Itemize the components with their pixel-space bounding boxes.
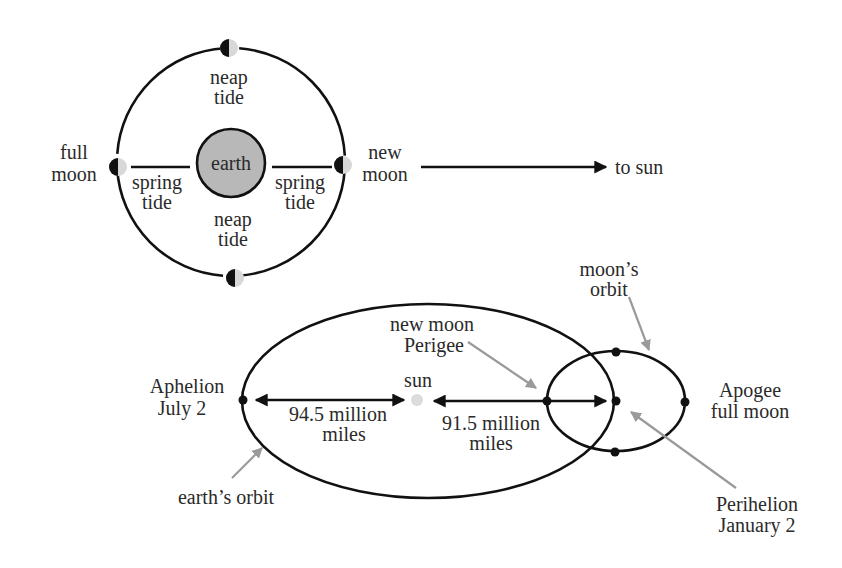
new-moon-perigee-point xyxy=(543,397,552,406)
aphelion-point xyxy=(239,396,248,405)
new-moon-label-2: moon xyxy=(362,163,408,185)
moons-orbit-label-2: orbit xyxy=(590,278,628,300)
sun-label: sun xyxy=(404,369,432,391)
sun-dot xyxy=(411,394,423,406)
tides-and-orbits-diagram: earth neap tide neap tide spring tide sp… xyxy=(0,0,842,568)
moon-orbit-bottom-point xyxy=(611,448,620,457)
aphelion-label-2: July 2 xyxy=(158,397,206,420)
earths-orbit-pointer-arrow xyxy=(232,448,262,478)
new-moon-label-1: new xyxy=(368,141,402,163)
spring-tide-right-label-2: tide xyxy=(285,191,315,213)
left-distance-label-2: miles xyxy=(322,423,366,445)
earths-orbit-label: earth’s orbit xyxy=(178,486,275,508)
full-moon-label-2: moon xyxy=(51,163,97,185)
tide-diagram: earth neap tide neap tide spring tide sp… xyxy=(51,39,663,287)
moon-phase-icon-full-moon xyxy=(109,158,127,176)
apogee-label-1: Apogee xyxy=(719,379,781,402)
perigee-pointer-arrow xyxy=(468,342,536,388)
moons-orbit-label-1: moon’s xyxy=(580,258,639,280)
new-moon-perigee-label-1: new moon xyxy=(390,313,474,335)
right-distance-label-2: miles xyxy=(469,432,513,454)
moon-orbit-top-point xyxy=(612,348,621,357)
aphelion-label-1: Aphelion xyxy=(150,375,224,398)
moon-phase-icon-top xyxy=(220,39,238,57)
full-moon-label-1: full xyxy=(60,141,88,163)
orbit-diagram: Aphelion July 2 sun 94.5 million miles 9… xyxy=(150,258,798,537)
earth-label: earth xyxy=(211,152,251,174)
neap-tide-top-label-2: tide xyxy=(214,86,244,108)
neap-tide-bottom-label-2: tide xyxy=(218,228,248,250)
right-distance-label-1: 91.5 million xyxy=(442,412,540,434)
to-sun-label: to sun xyxy=(615,156,663,178)
moons-orbit-pointer-arrow xyxy=(629,297,649,350)
new-moon-perigee-label-2: Perigee xyxy=(404,334,464,357)
spring-tide-left-label-2: tide xyxy=(142,191,172,213)
perihelion-label-1: Perihelion xyxy=(716,493,798,515)
apogee-label-2: full moon xyxy=(711,400,789,422)
left-distance-label-1: 94.5 million xyxy=(289,403,387,425)
perihelion-label-2: January 2 xyxy=(718,514,795,537)
apogee-point xyxy=(681,398,690,407)
perihelion-pointer-arrow xyxy=(631,412,736,488)
perihelion-point xyxy=(612,397,621,406)
moon-phase-icon-new-moon xyxy=(334,156,352,174)
moon-phase-icon-bottom xyxy=(226,269,244,287)
